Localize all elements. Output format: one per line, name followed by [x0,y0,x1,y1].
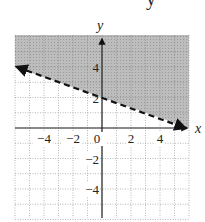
y-tick-label: −4 [85,182,99,197]
x-tick-label: 0 [94,131,101,146]
y-axis-label: y [95,18,104,33]
y-tick-label: 2 [93,91,100,106]
x-tick-label: 4 [157,131,164,146]
y-tick-label: 4 [93,60,100,75]
cropped-top-glyph: y [146,0,156,10]
y-tick-label: −2 [85,152,99,167]
x-axis-label: x [194,121,202,136]
x-tick-label: 2 [128,131,135,146]
x-tick-label: −4 [37,131,51,146]
inequality-graph: xy −4−2024−4−224 y [0,0,205,222]
x-tick-label: −2 [66,131,80,146]
